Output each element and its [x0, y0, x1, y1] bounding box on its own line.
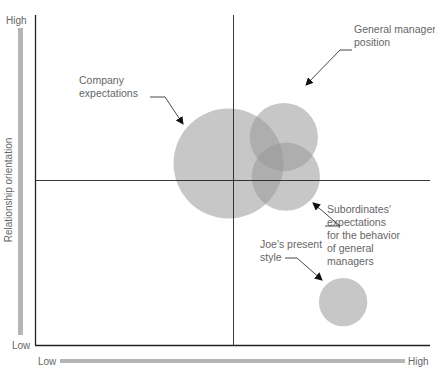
label-line: managers — [327, 255, 374, 267]
y-axis-high-label: High — [6, 15, 27, 26]
label-line: Subordinates' — [327, 203, 391, 215]
label-line: for the behavior — [327, 229, 400, 241]
y-axis-title: Relationship orientation — [3, 138, 14, 243]
x-axis-low-label: Low — [38, 356, 57, 367]
y-axis-bar — [18, 28, 23, 335]
x-axis-high-label: High — [408, 356, 429, 367]
label-company: Companyexpectations — [79, 74, 138, 99]
arrow-joe — [285, 258, 322, 280]
label-gm-position: General managerposition — [354, 23, 435, 48]
label-joe: Joe's presentstyle — [260, 238, 322, 263]
x-axis-bar — [60, 359, 405, 363]
label-line: of general — [327, 242, 374, 254]
diagram-canvas: High Low Low High Relationship orientati… — [0, 0, 435, 371]
label-line: Joe's present — [260, 238, 322, 250]
arrow-gm-position — [306, 50, 352, 85]
bubble-subordinates — [252, 143, 320, 211]
bubble-joe — [319, 278, 367, 326]
label-line: position — [354, 36, 390, 48]
label-subordinates: Subordinates'expectationsfor the behavio… — [327, 203, 400, 267]
label-line: General manager — [354, 23, 435, 35]
label-line: style — [260, 251, 282, 263]
y-axis-low-label: Low — [12, 340, 31, 351]
label-line: Company — [79, 74, 125, 86]
arrow-company — [150, 97, 183, 124]
label-line: expectations — [79, 87, 138, 99]
